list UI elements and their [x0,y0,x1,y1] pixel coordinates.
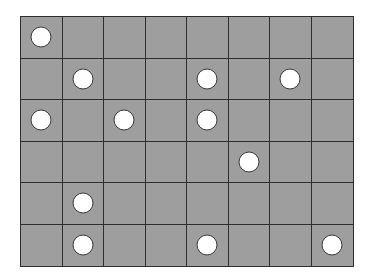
disc-icon[interactable] [197,68,218,89]
board-cell-r4-c5[interactable] [229,183,271,225]
board-cell-r5-c2[interactable] [104,225,146,267]
board-cell-r3-c6[interactable] [270,142,312,184]
board-cell-r2-c3[interactable] [146,100,188,142]
board-cell-r0-c6[interactable] [270,17,312,59]
disc-icon[interactable] [31,110,52,131]
board-cell-r4-c0[interactable] [21,183,63,225]
board-cell-r4-c1[interactable] [63,183,105,225]
board-cell-r1-c6[interactable] [270,59,312,101]
disc-icon[interactable] [72,193,93,214]
board-cell-r4-c3[interactable] [146,183,188,225]
board-cell-r3-c5[interactable] [229,142,271,184]
board-cell-r0-c0[interactable] [21,17,63,59]
board-cell-r4-c7[interactable] [312,183,354,225]
board-cell-r5-c3[interactable] [146,225,188,267]
board-cell-r2-c5[interactable] [229,100,271,142]
board-cell-r3-c4[interactable] [187,142,229,184]
board-cell-r5-c0[interactable] [21,225,63,267]
disc-icon[interactable] [197,235,218,256]
board-cell-r5-c6[interactable] [270,225,312,267]
board-cell-r2-c4[interactable] [187,100,229,142]
board-cell-r5-c1[interactable] [63,225,105,267]
board-cell-r0-c1[interactable] [63,17,105,59]
board-cell-r3-c0[interactable] [21,142,63,184]
disc-icon[interactable] [72,68,93,89]
disc-icon[interactable] [114,110,135,131]
board-cell-r3-c7[interactable] [312,142,354,184]
board-cell-r2-c2[interactable] [104,100,146,142]
board-cell-r3-c2[interactable] [104,142,146,184]
board-cell-r1-c3[interactable] [146,59,188,101]
board-cell-r1-c2[interactable] [104,59,146,101]
disc-icon[interactable] [322,235,343,256]
board-cell-r2-c6[interactable] [270,100,312,142]
board-cell-r0-c5[interactable] [229,17,271,59]
board-cell-r3-c1[interactable] [63,142,105,184]
board-cell-r1-c4[interactable] [187,59,229,101]
disc-icon[interactable] [238,151,259,172]
board-cell-r1-c7[interactable] [312,59,354,101]
disc-icon[interactable] [31,27,52,48]
board-cell-r2-c0[interactable] [21,100,63,142]
board-cell-r4-c2[interactable] [104,183,146,225]
board-cell-r3-c3[interactable] [146,142,188,184]
board-cell-r2-c7[interactable] [312,100,354,142]
board-cell-r2-c1[interactable] [63,100,105,142]
board-cell-r1-c1[interactable] [63,59,105,101]
disc-icon[interactable] [280,68,301,89]
game-board [20,16,354,267]
disc-icon[interactable] [72,235,93,256]
board-cell-r0-c4[interactable] [187,17,229,59]
board-cell-r5-c7[interactable] [312,225,354,267]
board-cell-r0-c7[interactable] [312,17,354,59]
board-cell-r4-c6[interactable] [270,183,312,225]
disc-icon[interactable] [197,110,218,131]
board-cell-r1-c0[interactable] [21,59,63,101]
board-cell-r0-c3[interactable] [146,17,188,59]
board-cell-r5-c5[interactable] [229,225,271,267]
board-cell-r1-c5[interactable] [229,59,271,101]
board-cell-r5-c4[interactable] [187,225,229,267]
board-cell-r0-c2[interactable] [104,17,146,59]
board-cell-r4-c4[interactable] [187,183,229,225]
